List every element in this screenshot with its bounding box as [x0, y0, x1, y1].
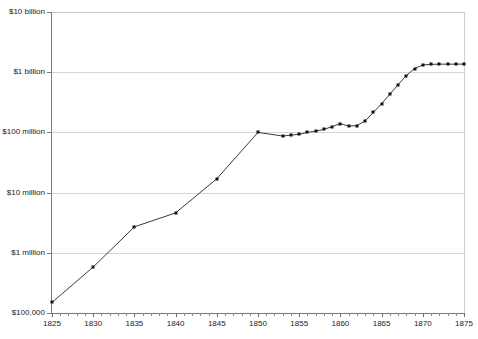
data-point — [380, 102, 383, 105]
x-axis-tick-minor — [456, 313, 457, 316]
x-axis-tick-minor — [110, 313, 111, 316]
data-point — [281, 135, 284, 138]
x-axis-tick-minor — [184, 313, 185, 316]
x-axis-tick-minor — [324, 313, 325, 316]
data-point — [289, 134, 292, 137]
y-axis-tick — [47, 193, 52, 194]
plot-area: $10 billion$1 billion$100 million$10 mil… — [51, 12, 464, 314]
x-axis-label: 1850 — [249, 320, 267, 328]
y-axis-tick — [47, 12, 52, 13]
series-line — [52, 12, 464, 313]
data-point — [405, 74, 408, 77]
x-axis-tick-minor — [200, 313, 201, 316]
x-axis-tick-major — [93, 313, 94, 317]
x-axis-label: 1870 — [414, 320, 432, 328]
y-axis-label: $100 million — [2, 128, 45, 136]
x-axis-tick-major — [299, 313, 300, 317]
data-point — [438, 63, 441, 66]
x-axis-label: 1830 — [84, 320, 102, 328]
x-axis-tick-minor — [390, 313, 391, 316]
x-axis-tick-major — [52, 313, 53, 317]
data-point — [306, 131, 309, 134]
x-axis-tick-major — [258, 313, 259, 317]
data-point — [339, 122, 342, 125]
data-point — [463, 63, 466, 66]
x-axis-tick-minor — [60, 313, 61, 316]
x-axis-label: 1855 — [290, 320, 308, 328]
y-axis-tick — [47, 72, 52, 73]
x-axis-tick-minor — [225, 313, 226, 316]
gridline — [52, 193, 464, 194]
data-point — [257, 131, 260, 134]
x-axis-tick-minor — [365, 313, 366, 316]
x-axis-tick-major — [423, 313, 424, 317]
data-point — [446, 63, 449, 66]
x-axis-label: 1865 — [373, 320, 391, 328]
x-axis-tick-minor — [167, 313, 168, 316]
x-axis-tick-minor — [448, 313, 449, 316]
x-axis-tick-minor — [332, 313, 333, 316]
y-axis-label: $1 million — [11, 249, 45, 257]
y-axis-label: $1 billion — [13, 68, 45, 76]
x-axis-tick-minor — [398, 313, 399, 316]
x-axis-tick-minor — [143, 313, 144, 316]
x-axis-tick-major — [464, 313, 465, 317]
x-axis-tick-minor — [101, 313, 102, 316]
plot-right-edge — [464, 12, 465, 313]
x-axis-tick-major — [382, 313, 383, 317]
data-point — [364, 119, 367, 122]
y-axis-label: $10 billion — [9, 8, 45, 16]
data-point — [347, 125, 350, 128]
data-point — [314, 130, 317, 133]
y-axis-label: $10 million — [7, 189, 45, 197]
data-point — [298, 133, 301, 136]
data-point — [322, 128, 325, 131]
x-axis-tick-minor — [233, 313, 234, 316]
x-axis-tick-minor — [266, 313, 267, 316]
data-point — [397, 83, 400, 86]
y-axis-tick — [47, 132, 52, 133]
x-axis-label: 1860 — [331, 320, 349, 328]
gridline — [52, 253, 464, 254]
x-axis-tick-minor — [406, 313, 407, 316]
data-point — [215, 177, 218, 180]
x-axis-tick-minor — [357, 313, 358, 316]
x-axis-label: 1845 — [208, 320, 226, 328]
x-axis-label: 1825 — [43, 320, 61, 328]
data-point — [454, 63, 457, 66]
x-axis-tick-minor — [159, 313, 160, 316]
x-axis-tick-minor — [415, 313, 416, 316]
x-axis-tick-minor — [283, 313, 284, 316]
x-axis-tick-minor — [316, 313, 317, 316]
x-axis-tick-minor — [126, 313, 127, 316]
x-axis-tick-major — [134, 313, 135, 317]
x-axis-tick-minor — [85, 313, 86, 316]
x-axis-tick-minor — [151, 313, 152, 316]
x-axis-tick-minor — [349, 313, 350, 316]
gridline — [52, 12, 464, 13]
x-axis-label: 1875 — [455, 320, 473, 328]
data-point — [51, 301, 54, 304]
gridline — [52, 72, 464, 73]
x-axis-tick-minor — [68, 313, 69, 316]
x-axis-tick-minor — [291, 313, 292, 316]
data-point — [430, 63, 433, 66]
x-axis-tick-minor — [439, 313, 440, 316]
data-point — [92, 266, 95, 269]
x-axis-tick-major — [217, 313, 218, 317]
x-axis-tick-minor — [373, 313, 374, 316]
data-point — [355, 124, 358, 127]
x-axis-tick-major — [176, 313, 177, 317]
x-axis-tick-minor — [192, 313, 193, 316]
data-point — [372, 111, 375, 114]
data-point — [388, 93, 391, 96]
x-axis-tick-minor — [250, 313, 251, 316]
x-axis-tick-minor — [209, 313, 210, 316]
x-axis-tick-minor — [118, 313, 119, 316]
chart-container: $10 billion$1 billion$100 million$10 mil… — [0, 0, 478, 339]
x-axis-tick-minor — [307, 313, 308, 316]
data-point — [413, 67, 416, 70]
data-point — [421, 63, 424, 66]
x-axis-tick-minor — [242, 313, 243, 316]
x-axis-tick-minor — [77, 313, 78, 316]
